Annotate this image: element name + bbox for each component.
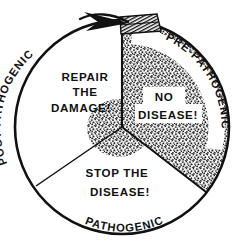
diagram-canvas: POST-PATHOGENIC PRE-PATHOGENIC PATHOGENI… <box>0 0 247 251</box>
arrow-feather-wedge <box>120 14 161 34</box>
post-line-3: DAMAGE! <box>51 101 111 114</box>
pre-box-line-1: NO <box>155 90 174 103</box>
patho-line-1: STOP THE <box>86 166 149 179</box>
patho-line-2: DISEASE! <box>90 185 150 198</box>
post-line-1: REPAIR <box>62 70 109 83</box>
pre-box-line-2: DISEASE! <box>138 108 198 121</box>
cycle-diagram: POST-PATHOGENIC PRE-PATHOGENIC PATHOGENI… <box>0 0 247 251</box>
post-line-2: THE <box>72 85 97 98</box>
